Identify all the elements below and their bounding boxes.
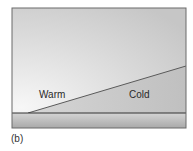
front-diagram: Warm Cold [0,0,193,151]
cold-label: Cold [129,89,150,100]
warm-label: Warm [39,89,65,100]
ground-strip [12,113,186,128]
figure-caption: (b) [11,133,23,144]
